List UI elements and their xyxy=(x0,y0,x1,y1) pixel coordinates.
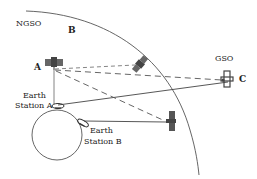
earth-station-a-dish-icon xyxy=(52,104,64,109)
dashed-sat-a-to-sat-b xyxy=(55,65,135,69)
satellite-a-icon xyxy=(45,57,63,70)
link-es-b-to-ngso-sat xyxy=(84,121,166,122)
earth-station-a-label-line1: Earth xyxy=(23,92,46,100)
earth-circle xyxy=(32,110,82,160)
satellite-c-gso-icon xyxy=(221,71,233,87)
link-es-a-to-gso xyxy=(58,82,228,105)
dashed-sat-a-to-gso xyxy=(55,70,222,80)
ngso-satellite-lower-icon xyxy=(166,111,176,131)
ngso-gso-interference-diagram: NGSO B A GSO C Earth Station A Earth Sta… xyxy=(0,0,257,179)
earth-station-b-dish-icon xyxy=(77,118,90,128)
gso-label: GSO xyxy=(215,55,233,63)
satellite-a-label: A xyxy=(34,63,41,72)
satellite-b-label: B xyxy=(68,26,76,35)
ngso-orbit-arc xyxy=(26,11,199,175)
satellite-c-label: C xyxy=(239,75,246,84)
earth-station-b-label-line1: Earth xyxy=(90,127,113,135)
earth-station-b-label-line2: Station B xyxy=(84,138,122,146)
ngso-label: NGSO xyxy=(16,20,41,28)
dashed-sat-a-to-ngso-sat xyxy=(56,71,165,121)
earth-station-a-label-line2: Station A xyxy=(15,102,53,110)
